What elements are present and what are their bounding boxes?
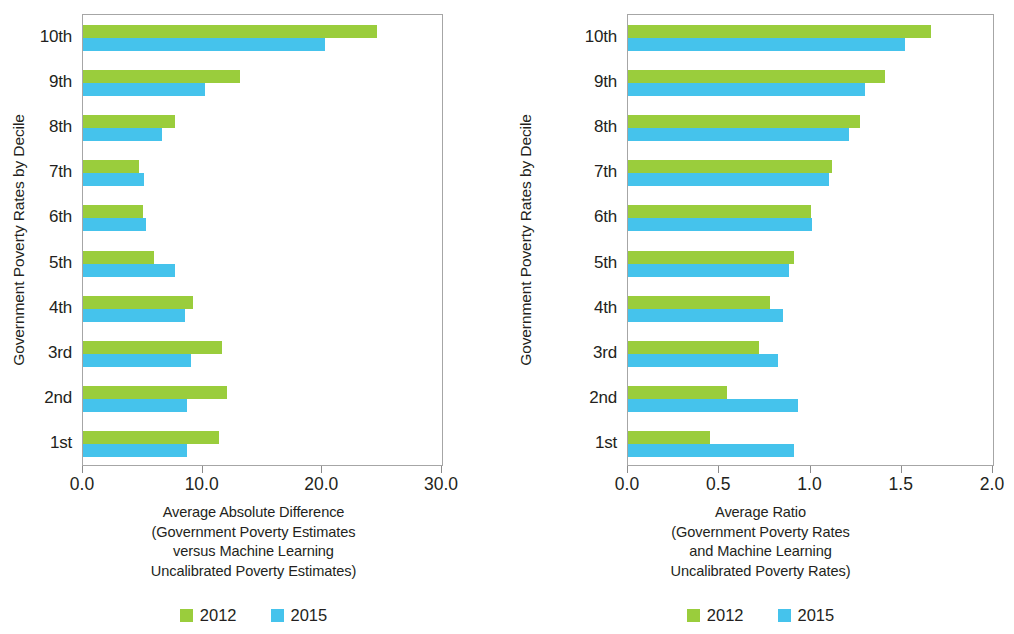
legend-label-2015: 2015 <box>291 606 328 625</box>
bar-6th-2012 <box>83 205 143 218</box>
x-caption-line-4: Uncalibrated Poverty Rates) <box>507 562 1014 582</box>
bar-1st-2012 <box>83 431 219 444</box>
y-tick-label-4th: 4th <box>0 285 72 330</box>
bar-2nd-2012 <box>628 386 727 399</box>
bar-4th-2015 <box>83 309 185 322</box>
x-tick-mark <box>202 466 203 473</box>
bar-group-2nd <box>628 377 993 422</box>
bar-2nd-2012 <box>83 386 227 399</box>
y-tick-label-3rd: 3rd <box>541 330 617 375</box>
legend-swatch-2012-icon <box>180 609 193 622</box>
y-tick-label-1st: 1st <box>541 421 617 466</box>
bar-5th-2012 <box>83 251 154 264</box>
bar-group-5th <box>83 241 442 286</box>
bar-group-2nd <box>83 377 442 422</box>
y-tick-label-3rd: 3rd <box>0 330 72 375</box>
bar-group-6th <box>83 196 442 241</box>
bar-3rd-2015 <box>83 354 191 367</box>
bar-group-5th <box>628 241 993 286</box>
x-tick-label-0.5: 0.5 <box>706 474 730 495</box>
bar-9th-2015 <box>83 83 205 96</box>
bar-1st-2015 <box>83 444 187 457</box>
bar-group-3rd <box>83 331 442 376</box>
bar-10th-2012 <box>83 25 377 38</box>
y-tick-label-6th: 6th <box>0 195 72 240</box>
y-tick-label-6th: 6th <box>541 195 617 240</box>
x-tick-mark <box>901 466 902 473</box>
bar-5th-2015 <box>83 264 175 277</box>
bar-group-9th <box>628 60 993 105</box>
x-tick-label-30.0: 30.0 <box>424 474 458 495</box>
bar-4th-2012 <box>83 296 193 309</box>
bar-group-4th <box>628 286 993 331</box>
legend-swatch-2012-icon <box>687 609 700 622</box>
bar-8th-2012 <box>628 115 860 128</box>
y-tick-label-2nd: 2nd <box>541 376 617 421</box>
bars-container-right <box>628 15 993 465</box>
bar-10th-2015 <box>83 38 325 51</box>
legend-label-2012: 2012 <box>200 606 237 625</box>
x-tick-label-20.0: 20.0 <box>304 474 338 495</box>
x-axis-right: 0.00.51.01.52.0 <box>627 466 994 496</box>
bar-7th-2012 <box>628 160 832 173</box>
bar-group-4th <box>83 286 442 331</box>
bar-group-8th <box>83 105 442 150</box>
bar-4th-2012 <box>628 296 770 309</box>
y-tick-label-7th: 7th <box>541 150 617 195</box>
bar-2nd-2015 <box>628 399 798 412</box>
y-axis-title-right: Government Poverty Rates by Decile <box>515 14 537 466</box>
bar-8th-2015 <box>83 128 162 141</box>
legend-swatch-2015-icon <box>271 609 284 622</box>
y-tick-label-10th: 10th <box>541 14 617 59</box>
x-caption-line-4: Uncalibrated Poverty Estimates) <box>0 562 507 582</box>
legend-left: 2012 2015 <box>0 606 507 625</box>
legend-label-2015: 2015 <box>798 606 835 625</box>
bar-7th-2015 <box>83 173 144 186</box>
x-caption-line-3: versus Machine Learning <box>0 542 507 562</box>
y-axis-title-right-wrap: Government Poverty Rates by Decile <box>507 0 541 470</box>
x-tick-mark <box>321 466 322 473</box>
bar-2nd-2015 <box>83 399 187 412</box>
x-tick-mark <box>718 466 719 473</box>
bar-10th-2015 <box>628 38 905 51</box>
figure-root: Government Poverty Rates by Decile 10th9… <box>0 0 1014 634</box>
x-caption-line-2: (Government Poverty Rates <box>507 523 1014 543</box>
y-tick-label-7th: 7th <box>0 150 72 195</box>
x-caption-line-3: and Machine Learning <box>507 542 1014 562</box>
y-tick-label-5th: 5th <box>541 240 617 285</box>
chart-panel-right: Government Poverty Rates by Decile 10th9… <box>507 0 1014 634</box>
legend-item-2012: 2012 <box>180 606 237 625</box>
bar-6th-2015 <box>628 218 812 231</box>
x-tick-label-1.5: 1.5 <box>889 474 913 495</box>
y-tick-label-8th: 8th <box>0 104 72 149</box>
x-tick-label-0.0: 0.0 <box>70 474 94 495</box>
bar-6th-2012 <box>628 205 811 218</box>
y-tick-label-4th: 4th <box>541 285 617 330</box>
y-tick-label-9th: 9th <box>0 59 72 104</box>
x-caption-line-1: Average Ratio <box>507 503 1014 523</box>
y-tick-label-2nd: 2nd <box>0 376 72 421</box>
bar-group-8th <box>628 105 993 150</box>
bar-group-3rd <box>628 331 993 376</box>
bar-4th-2015 <box>628 309 783 322</box>
y-axis-tick-labels-right: 10th9th8th7th6th5th4th3rd2nd1st <box>547 14 623 466</box>
bar-3rd-2015 <box>628 354 778 367</box>
x-tick-label-2.0: 2.0 <box>980 474 1004 495</box>
x-tick-mark <box>810 466 811 473</box>
bar-group-1st <box>628 422 993 467</box>
bar-group-6th <box>628 196 993 241</box>
x-tick-mark <box>441 466 442 473</box>
bar-7th-2015 <box>628 173 829 186</box>
bars-container-left <box>83 15 442 465</box>
bar-1st-2015 <box>628 444 794 457</box>
x-tick-mark <box>82 466 83 473</box>
x-axis-caption-left: Average Absolute Difference (Government … <box>0 503 507 581</box>
bar-1st-2012 <box>628 431 710 444</box>
x-axis-left: 0.010.020.030.0 <box>82 466 443 496</box>
bar-8th-2015 <box>628 128 849 141</box>
x-tick-mark <box>627 466 628 473</box>
x-caption-line-2: (Government Poverty Estimates <box>0 523 507 543</box>
y-tick-label-5th: 5th <box>0 240 72 285</box>
bar-5th-2012 <box>628 251 794 264</box>
y-tick-label-1st: 1st <box>0 421 72 466</box>
